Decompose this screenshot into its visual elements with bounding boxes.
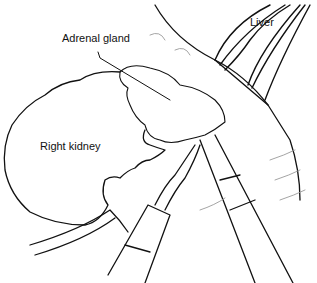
instrument-left xyxy=(108,145,200,283)
label-adrenal-gland: Adrenal gland xyxy=(62,32,130,44)
adrenal-gland-outline xyxy=(120,66,225,143)
anatomy-illustration: Liver Adrenal gland Right kidney xyxy=(0,0,317,283)
adrenal-leader-line xyxy=(98,52,170,100)
liver-outline xyxy=(155,5,300,200)
label-liver: Liver xyxy=(250,16,274,28)
label-right-kidney: Right kidney xyxy=(40,140,101,152)
